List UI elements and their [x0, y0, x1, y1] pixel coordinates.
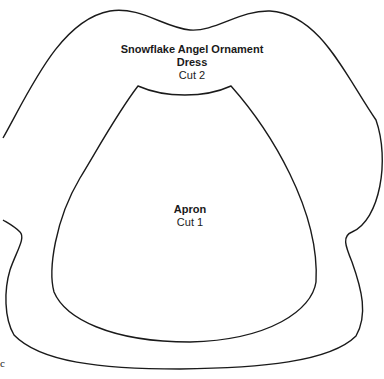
apron-name: Apron	[140, 203, 240, 216]
pattern-title: Snowflake Angel Ornament	[100, 43, 284, 56]
dress-cut-count: Cut 2	[100, 69, 284, 82]
apron-cut-count: Cut 1	[140, 216, 240, 229]
corner-mark: c	[0, 357, 5, 369]
apron-label: Apron Cut 1	[140, 203, 240, 229]
dress-label: Snowflake Angel Ornament Dress Cut 2	[100, 43, 284, 82]
dress-name: Dress	[100, 56, 284, 69]
